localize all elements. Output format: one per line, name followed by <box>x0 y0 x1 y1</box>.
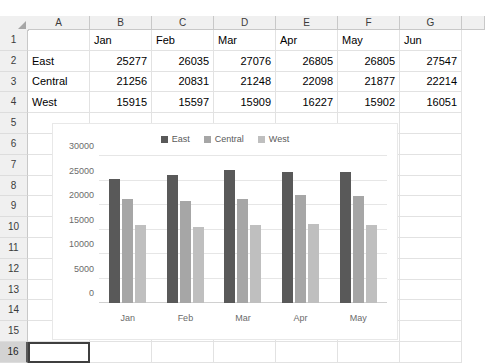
legend-swatch-icon <box>258 136 265 143</box>
cell-F16[interactable] <box>338 342 400 363</box>
column-header-e[interactable]: E <box>276 16 338 30</box>
select-all-triangle-icon <box>18 21 26 29</box>
cell-F1[interactable]: May <box>338 30 400 51</box>
y-axis-tick-25000: 25000 <box>69 166 94 176</box>
bar-east-jan <box>109 179 120 303</box>
bar-central-apr <box>295 195 306 303</box>
legend-swatch-icon <box>161 136 168 143</box>
cell-B16[interactable] <box>90 342 152 363</box>
bar-central-may <box>353 196 364 303</box>
cell-D3[interactable]: 21248 <box>214 72 276 93</box>
cell-C16[interactable] <box>152 342 214 363</box>
cell-A16[interactable] <box>28 342 90 363</box>
column-header-a[interactable]: A <box>28 16 90 30</box>
row-header-5[interactable]: 5 <box>0 113 28 134</box>
column-header-d[interactable]: D <box>214 16 276 30</box>
cell-E2[interactable]: 26805 <box>276 51 338 72</box>
row-header-8[interactable]: 8 <box>0 176 28 197</box>
cell-G3[interactable]: 22214 <box>400 72 462 93</box>
cell-G6[interactable] <box>400 134 462 155</box>
cell-C4[interactable]: 15597 <box>152 92 214 113</box>
row-header-2[interactable]: 2 <box>0 51 28 72</box>
cell-G15[interactable] <box>400 321 462 342</box>
row-header-12[interactable]: 12 <box>0 259 28 280</box>
bar-west-jan <box>135 225 146 303</box>
bar-central-mar <box>237 199 248 303</box>
cell-G10[interactable] <box>400 217 462 238</box>
cell-E16[interactable] <box>276 342 338 363</box>
cell-G8[interactable] <box>400 176 462 197</box>
cell-C2[interactable]: 26035 <box>152 51 214 72</box>
bar-east-may <box>340 172 351 303</box>
cell-G1[interactable]: Jun <box>400 30 462 51</box>
cell-E4[interactable]: 16227 <box>276 92 338 113</box>
cell-G16[interactable] <box>400 342 462 363</box>
bar-group-may <box>329 156 387 303</box>
row-header-9[interactable]: 9 <box>0 196 28 217</box>
chart-x-axis-labels: JanFebMarAprMay <box>99 313 387 325</box>
cell-C3[interactable]: 20831 <box>152 72 214 93</box>
row-header-1[interactable]: 1 <box>0 30 28 51</box>
column-header-c[interactable]: C <box>152 16 214 30</box>
row-header-3[interactable]: 3 <box>0 72 28 93</box>
embedded-chart[interactable]: EastCentralWest 050001000015000200002500… <box>52 123 398 340</box>
x-axis-label-feb: Feb <box>157 313 215 325</box>
bar-west-feb <box>193 227 204 303</box>
spreadsheet-grid[interactable]: ABCDEFG 12345678910111213141516 JanFebMa… <box>0 0 485 363</box>
cell-D16[interactable] <box>214 342 276 363</box>
chart-bars <box>99 156 387 303</box>
row-header-4[interactable]: 4 <box>0 92 28 113</box>
row-header-15[interactable]: 15 <box>0 321 28 342</box>
legend-label: Central <box>215 134 244 144</box>
cell-G9[interactable] <box>400 196 462 217</box>
cell-A1[interactable] <box>28 30 90 51</box>
cell-F3[interactable]: 21877 <box>338 72 400 93</box>
cell-B3[interactable]: 21256 <box>90 72 152 93</box>
cell-D2[interactable]: 27076 <box>214 51 276 72</box>
cell-G13[interactable] <box>400 280 462 301</box>
column-header-f[interactable]: F <box>338 16 400 30</box>
cell-D1[interactable]: Mar <box>214 30 276 51</box>
row-header-6[interactable]: 6 <box>0 134 28 155</box>
row-header-16[interactable]: 16 <box>0 342 28 363</box>
cell-G2[interactable]: 27547 <box>400 51 462 72</box>
cell-A3[interactable]: Central <box>28 72 90 93</box>
row-header-10[interactable]: 10 <box>0 217 28 238</box>
row-header-13[interactable]: 13 <box>0 280 28 301</box>
row-header-11[interactable]: 11 <box>0 238 28 259</box>
cell-G12[interactable] <box>400 259 462 280</box>
cell-B4[interactable]: 15915 <box>90 92 152 113</box>
bar-group-jan <box>99 156 157 303</box>
bar-central-feb <box>180 201 191 303</box>
cell-G4[interactable]: 16051 <box>400 92 462 113</box>
cell-G5[interactable] <box>400 113 462 134</box>
cell-A2[interactable]: East <box>28 51 90 72</box>
cell-D4[interactable]: 15909 <box>214 92 276 113</box>
bar-east-mar <box>224 170 235 303</box>
cell-C1[interactable]: Feb <box>152 30 214 51</box>
cell-F4[interactable]: 15902 <box>338 92 400 113</box>
bar-central-jan <box>122 199 133 303</box>
y-axis-tick-5000: 5000 <box>74 264 94 274</box>
legend-entry-west: West <box>258 134 289 144</box>
cell-G7[interactable] <box>400 155 462 176</box>
cell-B1[interactable]: Jan <box>90 30 152 51</box>
column-header-b[interactable]: B <box>90 16 152 30</box>
bar-east-feb <box>167 175 178 303</box>
column-header-g[interactable]: G <box>400 16 462 30</box>
legend-entry-east: East <box>161 134 190 144</box>
x-axis-label-mar: Mar <box>214 313 272 325</box>
cell-A4[interactable]: West <box>28 92 90 113</box>
column-header-partial[interactable] <box>462 16 485 30</box>
select-all-corner[interactable] <box>0 16 29 31</box>
row-header-7[interactable]: 7 <box>0 155 28 176</box>
cell-G11[interactable] <box>400 238 462 259</box>
cell-B2[interactable]: 25277 <box>90 51 152 72</box>
row-header-14[interactable]: 14 <box>0 300 28 321</box>
chart-plot-area: 050001000015000200002500030000 <box>99 156 387 303</box>
cell-F2[interactable]: 26805 <box>338 51 400 72</box>
cell-E1[interactable]: Apr <box>276 30 338 51</box>
bar-group-feb <box>157 156 215 303</box>
cell-E3[interactable]: 22098 <box>276 72 338 93</box>
cell-G14[interactable] <box>400 300 462 321</box>
